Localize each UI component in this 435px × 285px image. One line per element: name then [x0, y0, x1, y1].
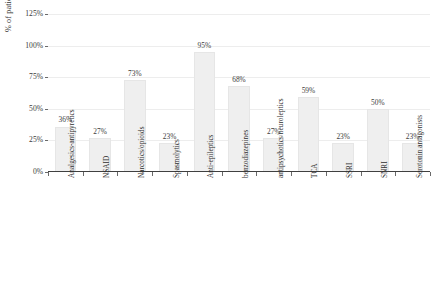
x-category-label: TCA	[311, 163, 319, 178]
x-category-label: SNRI	[381, 161, 389, 178]
bar-value-label: 50%	[361, 98, 396, 107]
y-tick-label: 100%	[2, 41, 43, 50]
bar-value-label: 95%	[187, 41, 222, 50]
x-tick-mark	[187, 172, 188, 176]
gridline	[48, 46, 430, 47]
x-category-label: Narcotics/opioids	[138, 126, 146, 178]
bar[interactable]	[298, 97, 320, 172]
y-tick-label: 25%	[2, 135, 43, 144]
bar-value-label: 23%	[326, 132, 361, 141]
x-tick-mark	[291, 172, 292, 176]
x-category-label: NSAID	[103, 156, 111, 178]
x-tick-mark	[152, 172, 153, 176]
gridline	[48, 14, 430, 15]
x-category-label: Anti-epileptics	[207, 135, 215, 178]
x-category-label: Spasmolytics	[173, 139, 181, 178]
bar-value-label: 27%	[256, 127, 291, 136]
plot-area: 36%27%73%23%95%68%27%59%23%50%23%	[48, 14, 430, 172]
x-tick-mark	[361, 172, 362, 176]
x-category-label: Serotonin antagonists	[416, 115, 424, 178]
x-tick-mark	[117, 172, 118, 176]
bar-value-label: 36%	[48, 115, 83, 124]
x-tick-mark	[326, 172, 327, 176]
x-category-label: antipsychotics/neuroleptics	[277, 98, 285, 178]
y-tick-label: 50%	[2, 104, 43, 113]
x-tick-mark	[48, 172, 49, 176]
bar-value-label: 68%	[222, 75, 257, 84]
bar-value-label: 59%	[291, 86, 326, 95]
bar-chart: % of patient cohort (n=22) 125%100%75%50…	[0, 0, 435, 285]
bar-value-label: 73%	[117, 69, 152, 78]
bar-value-label: 27%	[83, 127, 118, 136]
x-category-label: Analgesics-antipyretics	[68, 109, 76, 178]
bar-value-label: 23%	[395, 132, 430, 141]
x-tick-mark	[256, 172, 257, 176]
y-tick-label: 125%	[2, 9, 43, 18]
x-category-label: SSRI	[346, 163, 354, 178]
x-category-label: benzodiazepines	[242, 130, 250, 178]
bar-value-label: 23%	[152, 132, 187, 141]
x-tick-mark	[430, 172, 431, 176]
x-tick-mark	[222, 172, 223, 176]
x-tick-mark	[395, 172, 396, 176]
y-tick-label: 0%	[2, 167, 43, 176]
y-tick-label: 75%	[2, 72, 43, 81]
x-tick-mark	[83, 172, 84, 176]
